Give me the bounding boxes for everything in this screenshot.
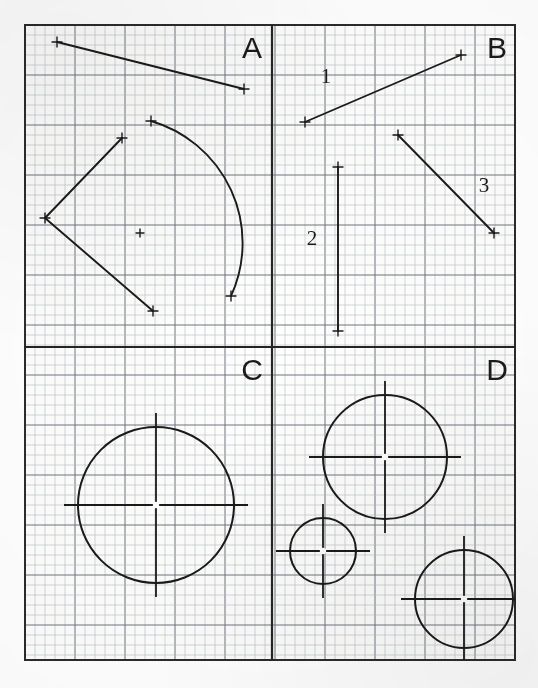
panel-label-C: C	[241, 353, 263, 386]
panel-c-circle-1-center-gap	[153, 502, 159, 508]
line-label-3: 3	[479, 173, 490, 197]
panel-label-A: A	[242, 31, 262, 64]
drawing-sheet: ABCD 123	[0, 0, 538, 688]
panel-label-D: D	[486, 353, 508, 386]
graph-paper-canvas: ABCD 123	[0, 0, 538, 688]
panel-d-circle-1-center-gap	[382, 454, 388, 460]
panel-d-circle-2-center-gap	[320, 548, 326, 554]
panel-d-circle-3-center-gap	[461, 596, 467, 602]
panel-label-B: B	[487, 31, 507, 64]
line-label-1: 1	[321, 64, 332, 88]
line-label-2: 2	[307, 226, 318, 250]
